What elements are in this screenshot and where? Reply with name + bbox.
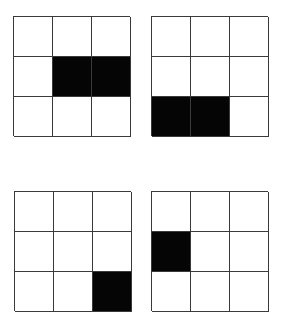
empty-cell <box>14 57 53 97</box>
empty-cell <box>191 57 230 97</box>
empty-cell <box>15 192 54 232</box>
filled-cell <box>152 232 191 272</box>
empty-cell <box>53 97 92 137</box>
empty-cell <box>152 272 191 312</box>
empty-cell <box>152 57 191 97</box>
empty-cell <box>191 232 230 272</box>
grid-top-left <box>13 16 130 136</box>
empty-cell <box>14 17 53 57</box>
empty-cell <box>230 57 269 97</box>
filled-cell <box>93 272 132 312</box>
empty-cell <box>230 97 269 137</box>
filled-cell <box>152 97 191 137</box>
empty-cell <box>14 97 53 137</box>
empty-cell <box>92 97 131 137</box>
empty-cell <box>152 192 191 232</box>
empty-cell <box>93 192 132 232</box>
grid-top-right <box>151 16 268 136</box>
empty-cell <box>53 17 92 57</box>
empty-cell <box>230 192 269 232</box>
filled-cell <box>92 57 131 97</box>
empty-cell <box>93 232 132 272</box>
empty-cell <box>191 272 230 312</box>
empty-cell <box>15 232 54 272</box>
empty-cell <box>230 17 269 57</box>
empty-cell <box>152 17 191 57</box>
empty-cell <box>54 192 93 232</box>
grid-bottom-left <box>14 191 131 311</box>
empty-cell <box>230 272 269 312</box>
empty-cell <box>54 232 93 272</box>
empty-cell <box>191 17 230 57</box>
filled-cell <box>191 97 230 137</box>
empty-cell <box>54 272 93 312</box>
filled-cell <box>53 57 92 97</box>
empty-cell <box>230 232 269 272</box>
grid-bottom-right <box>151 191 268 311</box>
empty-cell <box>15 272 54 312</box>
empty-cell <box>191 192 230 232</box>
empty-cell <box>92 17 131 57</box>
